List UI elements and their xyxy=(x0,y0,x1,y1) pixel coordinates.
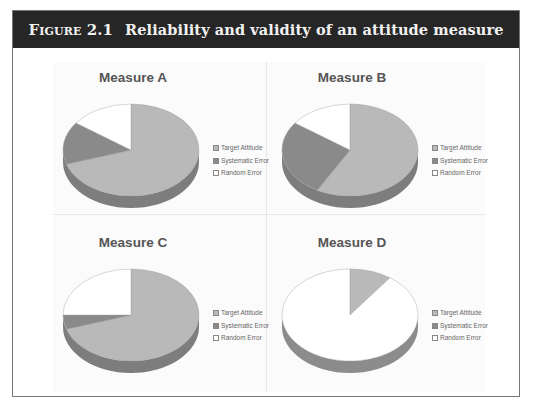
legend-label: Random Error xyxy=(221,167,262,180)
legend-item: Systematic Error xyxy=(432,320,488,333)
legend: Target AttitudeSystematic ErrorRandom Er… xyxy=(213,142,269,180)
legend-item: Target Attitude xyxy=(213,307,269,320)
legend-swatch-icon xyxy=(213,158,219,164)
chart-panel-c: Measure C Target AttitudeSystematic Erro… xyxy=(53,227,266,379)
horizontal-divider xyxy=(53,214,485,215)
legend-label: Systematic Error xyxy=(221,320,269,333)
figure-header: Figure 2.1 Reliability and validity of a… xyxy=(13,11,519,48)
legend-swatch-icon xyxy=(432,323,438,329)
legend-label: Target Attitude xyxy=(440,142,482,155)
legend-label: Systematic Error xyxy=(221,155,269,168)
legend: Target AttitudeSystematic ErrorRandom Er… xyxy=(432,307,488,345)
legend-swatch-icon xyxy=(213,310,219,316)
legend-label: Random Error xyxy=(221,332,262,345)
pie-chart xyxy=(53,62,266,214)
pie-chart xyxy=(272,62,485,214)
legend-item: Systematic Error xyxy=(213,320,269,333)
legend-swatch-icon xyxy=(432,170,438,176)
legend-item: Random Error xyxy=(432,332,488,345)
legend-label: Target Attitude xyxy=(221,142,263,155)
legend-item: Target Attitude xyxy=(213,142,269,155)
legend-item: Systematic Error xyxy=(432,155,488,168)
chart-grid: Measure A Target AttitudeSystematic Erro… xyxy=(53,62,485,392)
legend-swatch-icon xyxy=(432,158,438,164)
legend-swatch-icon xyxy=(213,323,219,329)
legend-swatch-icon xyxy=(213,170,219,176)
chart-panel-a: Measure A Target AttitudeSystematic Erro… xyxy=(53,62,266,214)
pie-chart xyxy=(53,227,266,379)
legend-swatch-icon xyxy=(213,145,219,151)
legend: Target AttitudeSystematic ErrorRandom Er… xyxy=(432,142,488,180)
legend-swatch-icon xyxy=(432,145,438,151)
legend-swatch-icon xyxy=(213,335,219,341)
legend-label: Target Attitude xyxy=(221,307,263,320)
legend-item: Target Attitude xyxy=(432,142,488,155)
legend-label: Random Error xyxy=(440,167,481,180)
pie-slice-random-error xyxy=(282,269,418,361)
legend-label: Random Error xyxy=(440,332,481,345)
pie-slice-random-error xyxy=(63,269,131,315)
legend-label: Systematic Error xyxy=(440,320,488,333)
legend-item: Random Error xyxy=(213,167,269,180)
figure-title: Reliability and validity of an attitude … xyxy=(125,21,503,38)
chart-panel-d: Measure D Target AttitudeSystematic Erro… xyxy=(272,227,485,379)
legend-item: Target Attitude xyxy=(432,307,488,320)
legend-swatch-icon xyxy=(432,310,438,316)
legend-label: Target Attitude xyxy=(440,307,482,320)
chart-panel-b: Measure B Target AttitudeSystematic Erro… xyxy=(272,62,485,214)
legend-item: Random Error xyxy=(432,167,488,180)
legend-item: Systematic Error xyxy=(213,155,269,168)
pie-chart xyxy=(272,227,485,379)
figure-label: Figure 2.1 xyxy=(28,21,113,39)
legend-item: Random Error xyxy=(213,332,269,345)
legend: Target AttitudeSystematic ErrorRandom Er… xyxy=(213,307,269,345)
figure-frame: Figure 2.1 Reliability and validity of a… xyxy=(12,10,520,397)
legend-label: Systematic Error xyxy=(440,155,488,168)
legend-swatch-icon xyxy=(432,335,438,341)
